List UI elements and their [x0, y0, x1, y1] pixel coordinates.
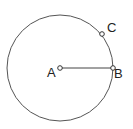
point-a-marker — [58, 66, 63, 71]
point-c-label: C — [107, 20, 116, 35]
point-b-label: B — [114, 66, 123, 81]
point-a-label: A — [47, 65, 56, 80]
circle-diagram: A B C — [0, 0, 133, 129]
point-c-marker — [100, 32, 105, 37]
